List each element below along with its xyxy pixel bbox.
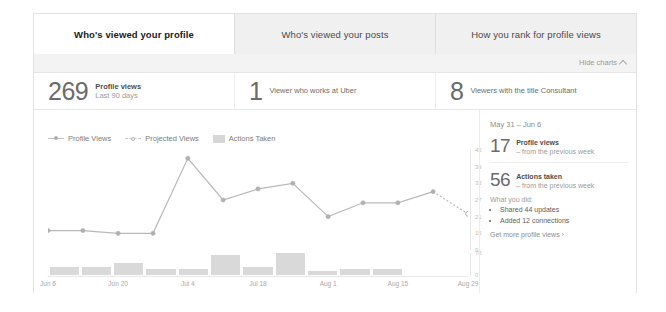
tab-whos-viewed-your-profile[interactable]: Who's viewed your profile [34, 14, 235, 54]
bar[interactable] [243, 267, 272, 275]
get-more-profile-views-link[interactable]: Get more profile views › [490, 231, 628, 238]
chart-legend: Profile Views Projected Views Actions Ta… [48, 134, 275, 143]
page-root: Who's viewed your profile Who's viewed y… [0, 0, 666, 312]
legend-item-actions-taken[interactable]: Actions Taken [213, 134, 276, 143]
bar[interactable] [82, 267, 111, 275]
summary-number: 56 [490, 170, 510, 189]
bar[interactable] [146, 269, 175, 275]
gray-square-icon [213, 135, 225, 143]
legend-item-profile-views[interactable]: Profile Views [48, 134, 111, 143]
actions-taken-bar-chart [48, 253, 468, 275]
chart-left-pane: Profile Views Projected Views Actions Ta… [34, 110, 479, 293]
stat-subtitle: Last 90 days [95, 91, 141, 100]
legend-label: Profile Views [68, 134, 111, 143]
summary-text: Profile views – from the previous week [516, 136, 594, 156]
tab-whos-viewed-your-posts[interactable]: Who's viewed your posts [235, 14, 436, 54]
what-you-did-list: Shared 44 updatesAdded 12 connections [490, 205, 628, 225]
tab-label: Who's viewed your profile [74, 29, 194, 40]
bar[interactable] [308, 271, 337, 275]
stat-viewer-company[interactable]: 1 Viewer who works at Uber [235, 73, 436, 109]
legend-label: Actions Taken [229, 134, 276, 143]
stat-text: Viewers with the title Consultant [470, 86, 576, 95]
what-you-did-item: Added 12 connections [500, 216, 628, 226]
x-axis-tick-label: Jul 4 [181, 280, 195, 287]
bar-y-axis-tick-label: 0 [475, 272, 478, 278]
hide-charts-label: Hide charts [579, 58, 617, 67]
tab-label: Who's viewed your posts [281, 29, 388, 40]
hide-charts-toggle[interactable]: Hide charts [579, 58, 626, 67]
stat-title: Profile views [95, 82, 141, 91]
x-axis-tick-label: Jul 18 [249, 280, 266, 287]
x-axis-tick-label: Jun 20 [108, 280, 128, 287]
chart-area: Profile Views Projected Views Actions Ta… [34, 110, 636, 293]
summary-text: Actions taken – from the previous week [516, 170, 594, 190]
x-axis-tick-label: Aug 29 [458, 280, 479, 287]
summary-number: 17 [490, 136, 510, 155]
tab-label: How you rank for profile views [471, 29, 601, 40]
bar[interactable] [340, 269, 369, 275]
stat-number: 8 [450, 79, 463, 104]
summary-divider [490, 162, 628, 163]
line-chart-plot [48, 150, 468, 250]
stat-title: Viewers with the title Consultant [470, 86, 576, 95]
tab-how-you-rank[interactable]: How you rank for profile views [436, 14, 636, 54]
summary-actions-taken: 56 Actions taken – from the previous wee… [490, 170, 628, 190]
what-you-did-item: Shared 44 updates [500, 205, 628, 215]
stat-viewer-title[interactable]: 8 Viewers with the title Consultant [436, 73, 636, 109]
tab-bar: Who's viewed your profile Who's viewed y… [34, 14, 636, 54]
line-chart-svg [48, 150, 468, 250]
stat-profile-views[interactable]: 269 Profile views Last 90 days [34, 73, 235, 109]
week-range-label: May 31 – Jun 6 [490, 120, 628, 129]
bar[interactable] [114, 263, 143, 275]
legend-label: Projected Views [145, 134, 199, 143]
chevron-up-icon [619, 59, 627, 67]
stat-number: 1 [249, 79, 262, 104]
dashed-line-open-dot-icon [125, 138, 141, 139]
summary-subtitle: – from the previous week [516, 181, 594, 190]
stats-strip: 269 Profile views Last 90 days 1 Viewer … [34, 72, 636, 110]
summary-subtitle: – from the previous week [516, 147, 594, 156]
bar[interactable] [50, 267, 79, 275]
stat-text: Profile views Last 90 days [95, 82, 141, 101]
legend-item-projected-views[interactable]: Projected Views [125, 134, 199, 143]
x-axis: Jun 6Jun 20Jul 4Jul 18Aug 1Aug 15Aug 29 [48, 276, 468, 291]
x-axis-tick-label: Jun 6 [40, 280, 56, 287]
what-you-did-label: What you did: [490, 196, 628, 203]
bar[interactable] [373, 269, 402, 275]
summary-title: Profile views [516, 138, 594, 147]
analytics-card: Who's viewed your profile Who's viewed y… [33, 13, 637, 293]
bar[interactable] [276, 253, 305, 275]
solid-line-dot-icon [48, 138, 64, 139]
weekly-summary-panel: May 31 – Jun 6 17 Profile views – from t… [479, 110, 636, 293]
summary-title: Actions taken [516, 172, 594, 181]
x-axis-tick-label: Aug 15 [388, 280, 409, 287]
summary-profile-views: 17 Profile views – from the previous wee… [490, 136, 628, 156]
x-axis-tick-label: Aug 1 [320, 280, 337, 287]
bar[interactable] [211, 255, 240, 275]
stat-text: Viewer who works at Uber [269, 86, 356, 95]
stat-title: Viewer who works at Uber [269, 86, 356, 95]
stat-number: 269 [48, 79, 88, 104]
bar[interactable] [179, 269, 208, 275]
